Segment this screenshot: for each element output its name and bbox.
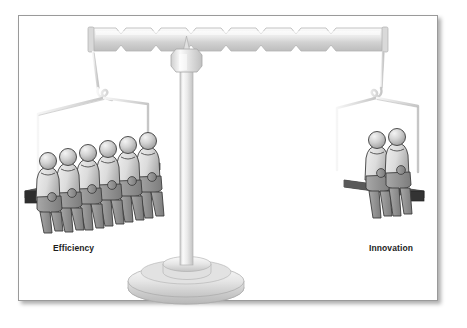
balance-scale-illustration xyxy=(0,0,467,328)
label-innovation: Innovation xyxy=(369,243,413,253)
illustration-stage: Efficiency Innovation xyxy=(0,0,467,328)
figure-group-left xyxy=(36,133,164,234)
person-figure xyxy=(36,153,63,234)
center-column xyxy=(180,54,193,265)
label-efficiency: Efficiency xyxy=(53,243,94,253)
balance-beam xyxy=(88,27,388,52)
figure-group-right xyxy=(365,129,412,219)
